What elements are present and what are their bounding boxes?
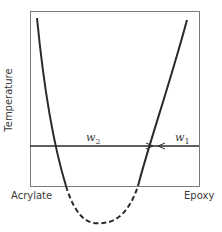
w1-label: w1	[175, 131, 190, 146]
w2-label: w2	[86, 131, 101, 146]
x-right-label: Epoxy	[184, 190, 214, 201]
x-left-label: Acrylate	[11, 190, 52, 201]
binodal-curve-metastable	[66, 186, 138, 223]
plot-frame	[31, 12, 200, 187]
binodal-curve-right	[138, 20, 187, 186]
y-axis-label: Temperature	[3, 68, 14, 131]
binodal-curve-left	[37, 18, 66, 186]
